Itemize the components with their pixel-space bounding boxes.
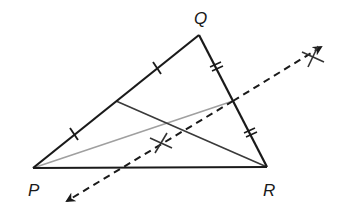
triangle-diagram: Q P R xyxy=(0,0,355,217)
side-PR xyxy=(33,167,267,168)
side-PQ xyxy=(33,35,199,168)
side-QR xyxy=(199,35,267,167)
label-R: R xyxy=(263,181,275,200)
label-Q: Q xyxy=(194,9,207,28)
label-P: P xyxy=(28,181,40,200)
arc-mark-lower-icon xyxy=(150,133,172,153)
tick-marks-QR xyxy=(210,62,257,137)
median-from-P xyxy=(33,101,233,168)
